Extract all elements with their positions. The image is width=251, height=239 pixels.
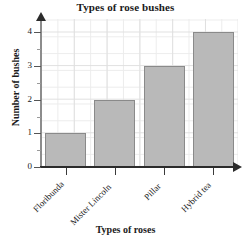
y-tick-minor (37, 83, 41, 84)
x-tick-floribunda (66, 168, 67, 175)
category-label-floribunda: Floribunda (31, 180, 66, 215)
y-axis-arrow-icon (36, 12, 46, 21)
y-tick-1 (34, 133, 41, 134)
y-tick-label-3: 3 (20, 60, 32, 70)
y-tick-label-0: 0 (20, 161, 32, 171)
x-axis-line (40, 166, 235, 168)
category-label-pillar: Pillar (142, 181, 163, 202)
bars-layer (41, 19, 238, 167)
y-tick-minor (37, 49, 41, 50)
y-tick-label-4: 4 (20, 26, 32, 36)
y-tick-label-2: 2 (20, 94, 32, 104)
y-tick-3 (34, 66, 41, 67)
y-tick-2 (34, 100, 41, 101)
x-axis-arrow-icon (233, 162, 242, 172)
bar-hybrid-tea (193, 32, 234, 167)
bar-pillar (144, 66, 185, 167)
bar-floribunda (45, 133, 86, 167)
x-axis-title: Types of roses (0, 224, 251, 235)
y-tick-label-1: 1 (20, 127, 32, 137)
y-tick-minor (37, 150, 41, 151)
category-label-hybrid-tea: Hybrid tea (179, 180, 213, 214)
plot-area (41, 19, 238, 167)
x-tick-mister-lincoln (115, 168, 116, 175)
x-tick-hybrid-tea (213, 168, 214, 175)
category-label-mister-lincoln: Mister Lincoln (68, 182, 113, 227)
bar-chart-figure: Types of rose bushes 01234 FloribundaMis… (0, 0, 251, 239)
y-tick-0 (34, 167, 41, 168)
y-axis-line (40, 19, 42, 168)
y-tick-label-wrap: 0 (18, 167, 32, 168)
bar-mister-lincoln (94, 100, 135, 167)
y-axis-title: Number of bushes (10, 33, 21, 143)
y-tick-minor (37, 117, 41, 118)
x-tick-pillar (164, 168, 165, 175)
y-tick-4 (34, 32, 41, 33)
